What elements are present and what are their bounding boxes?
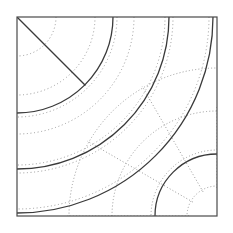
geometric-arc-diagram: Concentric arc geometric construction Sq…	[0, 0, 233, 233]
diagram-canvas: Concentric arc geometric construction Sq…	[0, 0, 233, 233]
